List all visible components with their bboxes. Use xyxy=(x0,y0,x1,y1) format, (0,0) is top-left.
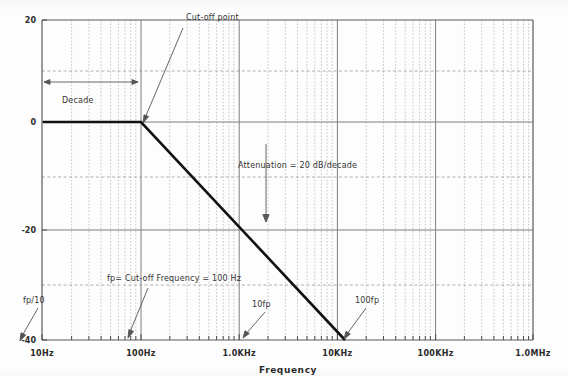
attenuation-arrow xyxy=(263,144,269,222)
hundred-fp-arrow xyxy=(344,308,366,339)
annotation-hundred-fp: 100fp xyxy=(355,296,379,305)
minor-horizontal-gridlines xyxy=(42,71,533,285)
major-horizontal-gridlines xyxy=(42,122,533,230)
response-curve xyxy=(43,122,345,340)
annotation-fp-over-10: fp/10 xyxy=(23,296,45,305)
x-tick-label-1mhz: 1.0MHz xyxy=(515,349,550,358)
x-tick-label-1khz: 1.0KHz xyxy=(222,349,256,358)
ten-fp-arrow xyxy=(243,312,265,338)
annotation-fp-definition: fp= Cut-off Frequency = 100 Hz xyxy=(107,274,241,283)
y-tick-label-0: 0 xyxy=(30,118,36,127)
y-axis-ticks xyxy=(42,20,47,340)
x-axis-ticks xyxy=(42,334,533,340)
x-tick-label-10khz: 10KHz xyxy=(322,349,352,358)
x-axis-title: Frequency xyxy=(259,365,317,375)
annotation-cutoff-point: Cut-off point xyxy=(186,13,239,22)
annotation-attenuation: Attenuation = 20 dB/decade xyxy=(238,161,357,170)
annotation-decade: Decade xyxy=(62,96,94,105)
y-tick-label-20: 20 xyxy=(25,16,37,25)
y-tick-label-minus-40: -40 xyxy=(22,336,37,345)
y-tick-label-minus-20: -20 xyxy=(22,226,37,235)
x-tick-label-10hz: 10Hz xyxy=(30,349,54,358)
decade-span-arrow xyxy=(44,80,138,85)
annotation-ten-fp: 10fp xyxy=(252,300,271,309)
plot-frame xyxy=(42,20,533,340)
x-tick-label-100hz: 100Hz xyxy=(126,349,156,358)
chart-canvas: Cut-off point Decade Attenuation = 20 dB… xyxy=(0,0,568,376)
x-tick-label-100khz: 100KHz xyxy=(418,349,454,358)
bode-plot-figure: Cut-off point Decade Attenuation = 20 dB… xyxy=(0,0,568,376)
major-vertical-gridlines xyxy=(141,20,436,340)
cutoff-point-arrow xyxy=(143,28,183,123)
